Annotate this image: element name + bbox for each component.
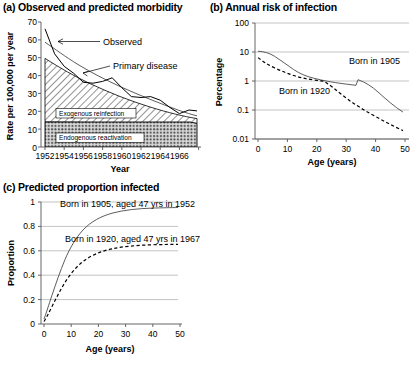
panel-c: (c) Predicted proportion infected 0 0.2 … xyxy=(0,180,290,381)
panel-c-yaxis-label: Proportion xyxy=(6,240,16,286)
ytick-70: 70 xyxy=(28,17,38,27)
ytick-0: 0 xyxy=(30,319,35,329)
ytick-1: 1 xyxy=(30,197,35,207)
xtick-1952: 1952 xyxy=(36,151,55,161)
panel-a-plot: 0 10 20 30 40 50 60 70 xyxy=(0,16,208,178)
ytick-10: 10 xyxy=(28,125,38,135)
panel-a-xaxis xyxy=(41,147,201,150)
ytick-0.4: 0.4 xyxy=(23,270,35,280)
annotation-primary-disease-label: Primary disease xyxy=(113,61,178,71)
annotation-born-1905: Born in 1905 xyxy=(349,56,400,66)
label-exogenous-reinfection: Exogenous reinfection xyxy=(56,109,136,119)
panel-a-letter: (a) xyxy=(3,1,15,13)
xtick-20: 20 xyxy=(312,144,322,154)
panel-b-yaxis xyxy=(252,23,255,139)
annotation-born-1905: Born in 1905, aged 47 yrs in 1952 xyxy=(60,199,195,209)
panel-b-letter: (b) xyxy=(210,1,223,13)
xtick-40: 40 xyxy=(371,144,381,154)
panel-a-title-text: Observed and predicted morbidity xyxy=(18,1,183,13)
panel-a-title: (a) Observed and predicted morbidity xyxy=(3,1,183,13)
ytick-50: 50 xyxy=(28,53,38,63)
xtick-1954: 1954 xyxy=(55,151,74,161)
curve-born-1920 xyxy=(44,244,178,321)
panel-c-xaxis xyxy=(41,324,182,327)
panel-c-ytick-labels: 0 0.2 0.4 0.6 0.8 1 xyxy=(23,197,35,329)
panel-a-ytick-labels: 0 10 20 30 40 50 60 70 xyxy=(28,17,38,152)
panel-a-xtick-labels: 1952 1954 1956 1958 1960 1962 1964 1966 xyxy=(36,151,190,161)
panel-b: (b) Annual risk of infection 100 10 1 0.… xyxy=(206,0,415,178)
panel-c-yaxis xyxy=(38,202,41,324)
panel-c-title: (c) Predicted proportion infected xyxy=(3,181,159,193)
xtick-10: 10 xyxy=(66,329,76,339)
ytick-40: 40 xyxy=(28,71,38,81)
panel-b-yaxis-label: Percentage xyxy=(214,58,224,107)
xtick-0: 0 xyxy=(256,144,261,154)
panel-a: (a) Observed and predicted morbidity 0 1… xyxy=(0,0,208,178)
xtick-30: 30 xyxy=(121,329,131,339)
label-endogenous-reactivation: Endogenous reactivation xyxy=(56,133,144,143)
label-exogenous-reinfection-text: Exogenous reinfection xyxy=(59,110,125,118)
ytick-60: 60 xyxy=(28,35,38,45)
panel-b-xtick-labels: 0 10 20 30 40 50 xyxy=(256,144,410,154)
xtick-0: 0 xyxy=(42,329,47,339)
panel-c-xtick-labels: 0 10 20 30 40 50 xyxy=(42,329,185,339)
ytick-100: 100 xyxy=(235,18,249,28)
panel-c-gridlines xyxy=(41,202,178,300)
panel-c-letter: (c) xyxy=(3,181,15,193)
panel-a-xaxis-label: Year xyxy=(110,164,130,174)
annotation-primary-disease: Primary disease xyxy=(83,61,178,76)
xtick-1962: 1962 xyxy=(132,151,151,161)
xtick-30: 30 xyxy=(341,144,351,154)
ytick-0.6: 0.6 xyxy=(23,246,35,256)
panel-b-xaxis-label: Age (years) xyxy=(307,157,356,167)
panel-c-xaxis-label: Age (years) xyxy=(85,344,134,354)
ytick-1: 1 xyxy=(244,76,249,86)
ytick-0.01: 0.01 xyxy=(232,134,249,144)
xtick-1956: 1956 xyxy=(74,151,93,161)
ytick-10: 10 xyxy=(240,47,250,57)
panel-b-xaxis xyxy=(255,139,409,142)
panel-a-yaxis-label: Rate per 100,000 per year xyxy=(5,31,15,140)
panel-a-yaxis xyxy=(38,22,41,147)
xtick-1960: 1960 xyxy=(112,151,131,161)
annotation-born-1920: Born in 1920, aged 47 yrs in 1967 xyxy=(65,234,200,244)
annotation-observed-label: Observed xyxy=(103,37,142,47)
xtick-20: 20 xyxy=(94,329,104,339)
ytick-0.2: 0.2 xyxy=(23,295,35,305)
panel-b-title-text: Annual risk of infection xyxy=(225,1,337,13)
xtick-10: 10 xyxy=(283,144,293,154)
label-endogenous-reactivation-text: Endogenous reactivation xyxy=(59,134,132,142)
xtick-1966: 1966 xyxy=(170,151,189,161)
annotation-observed: Observed xyxy=(58,37,142,47)
ytick-0.8: 0.8 xyxy=(23,221,35,231)
ytick-30: 30 xyxy=(28,89,38,99)
xtick-40: 40 xyxy=(148,329,158,339)
panel-c-plot: 0 0.2 0.4 0.6 0.8 1 Born in 1905, aged 4… xyxy=(0,195,290,380)
panel-b-ytick-labels: 100 10 1 0.1 0.01 xyxy=(232,18,249,144)
xtick-1964: 1964 xyxy=(151,151,170,161)
xtick-1958: 1958 xyxy=(93,151,112,161)
panel-c-title-text: Predicted proportion infected xyxy=(18,181,159,193)
curve-born-1905 xyxy=(44,208,178,320)
ytick-0.1: 0.1 xyxy=(237,105,249,115)
ytick-20: 20 xyxy=(28,107,38,117)
panel-b-plot: 100 10 1 0.1 0.01 Born in 1905 Born in 1… xyxy=(206,16,415,178)
panel-b-gridlines xyxy=(255,23,409,139)
annotation-born-1920: Born in 1920 xyxy=(279,86,330,96)
xtick-50: 50 xyxy=(400,144,410,154)
xtick-50: 50 xyxy=(175,329,185,339)
panel-b-title: (b) Annual risk of infection xyxy=(210,1,337,13)
